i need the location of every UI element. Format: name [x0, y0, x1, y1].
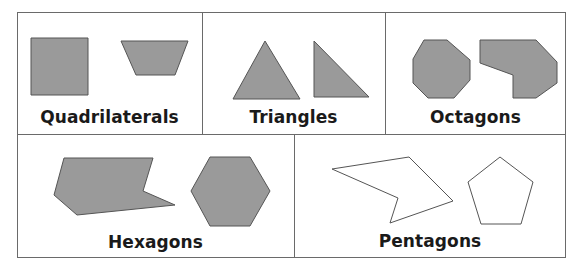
label-triangles: Triangles [202, 107, 385, 127]
shapes-canvas [0, 0, 583, 268]
square-shape [31, 38, 88, 95]
irregular-octagon-shape [480, 40, 557, 98]
regular-hexagon-shape [191, 157, 270, 226]
concave-hexagon-shape [54, 158, 175, 215]
regular-pentagon-shape [468, 157, 533, 224]
trapezoid-shape [121, 41, 188, 75]
acute-triangle-shape [233, 41, 300, 99]
right-triangle-shape [314, 41, 369, 97]
label-quadrilaterals: Quadrilaterals [17, 107, 202, 127]
label-hexagons: Hexagons [17, 232, 294, 252]
regular-octagon-shape [413, 40, 470, 98]
label-octagons: Octagons [385, 107, 566, 127]
label-pentagons: Pentagons [294, 231, 566, 251]
concave-pentagon-shape [332, 157, 453, 223]
